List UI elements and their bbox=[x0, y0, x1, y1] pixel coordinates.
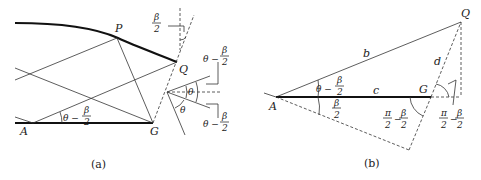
top-beta-den: 2 bbox=[153, 24, 160, 34]
lower-right-num: β bbox=[221, 111, 227, 121]
top-beta-num: β bbox=[153, 12, 159, 22]
beta-den-g: 2 bbox=[400, 120, 407, 130]
upper-right-num: β bbox=[221, 45, 227, 55]
beta-den-r: 2 bbox=[456, 120, 463, 130]
upper-right-prefix: θ − bbox=[203, 54, 219, 64]
beta-num-below: β bbox=[333, 98, 339, 108]
side-b-label: b bbox=[363, 47, 370, 60]
point-a-label-b: A bbox=[268, 100, 277, 113]
pi-den-r: 2 bbox=[440, 120, 447, 130]
point-g-label: G bbox=[150, 125, 159, 138]
angle-a-num: β bbox=[83, 105, 89, 115]
angle-a-prefix: θ − bbox=[63, 113, 79, 123]
beta-num-r: β bbox=[456, 108, 462, 118]
diagram: A G P Q θ − β 2 β 2 θ − β 2 θ θ θ − β 2 … bbox=[0, 0, 481, 180]
figure-b: A G Q b c d θ − β 2 β 2 π 2 − β 2 π 2 − … bbox=[264, 7, 470, 170]
point-q-label: Q bbox=[179, 63, 188, 76]
point-p-label: P bbox=[114, 22, 123, 35]
side-d-label: d bbox=[434, 55, 441, 68]
caption-a: (a) bbox=[91, 158, 106, 171]
angle-a-den: 2 bbox=[83, 117, 90, 127]
pi-num-r: π bbox=[440, 108, 448, 118]
pi-den-g: 2 bbox=[384, 120, 391, 130]
theta-label-1: θ bbox=[188, 87, 194, 97]
angle-two-b: 2 bbox=[336, 87, 343, 97]
upper-right-den: 2 bbox=[221, 57, 228, 67]
theta-label-2: θ bbox=[180, 105, 186, 115]
lower-right-den: 2 bbox=[221, 123, 228, 133]
point-a-label: A bbox=[19, 125, 28, 138]
side-c-label: c bbox=[373, 84, 379, 97]
beta-den-below: 2 bbox=[333, 110, 340, 120]
caption-b: (b) bbox=[364, 157, 380, 170]
point-g-label-b: G bbox=[419, 83, 428, 96]
upper-curve bbox=[15, 23, 177, 62]
lower-right-prefix: θ − bbox=[203, 119, 219, 129]
angle-theta-prefix-b: θ − bbox=[316, 84, 332, 94]
figure-a: A G P Q θ − β 2 β 2 θ − β 2 θ θ θ − β 2 … bbox=[15, 8, 229, 171]
beta-num-g: β bbox=[400, 108, 406, 118]
pi-num-g: π bbox=[384, 108, 392, 118]
angle-beta-num-b: β bbox=[336, 75, 342, 85]
point-q-label-b: Q bbox=[461, 7, 470, 20]
